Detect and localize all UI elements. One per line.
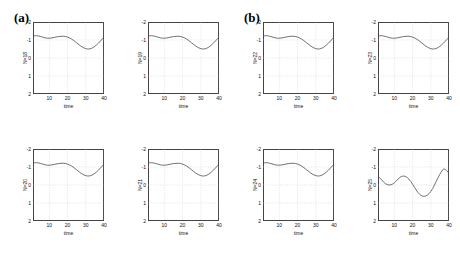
x-tick-label: 20 (180, 223, 186, 228)
x-axis-label: time (64, 103, 73, 109)
y-tick-label: -1 (27, 38, 31, 43)
x-axis-label: time (409, 230, 418, 236)
x-tick-label: 20 (65, 96, 71, 101)
data-series-line (33, 163, 104, 176)
x-axis-label: time (294, 230, 303, 236)
y-tick-label: 0 (258, 183, 261, 188)
axes-area: 210-1-210203040timeN=25 (378, 149, 449, 221)
subplot-N-19: 210-1-210203040timeN=19 (115, 0, 230, 127)
x-axis-label: time (294, 103, 303, 109)
axes-area: 210-1-210203040timeN=22 (263, 22, 334, 94)
y-tick-label: 2 (28, 92, 31, 97)
x-axis-label: time (64, 230, 73, 236)
y-tick-label: -2 (27, 147, 31, 152)
axes-area: 210-1-210203040timeN=18 (33, 22, 104, 94)
x-tick-label: 20 (410, 223, 416, 228)
data-series-line (263, 163, 334, 176)
gridlines (378, 22, 449, 94)
x-tick-label: 10 (162, 96, 168, 101)
x-tick-label: 10 (162, 223, 168, 228)
y-tick-label: -1 (372, 38, 376, 43)
y-tick-label: 0 (28, 56, 31, 61)
y-axis-label: N=21 (137, 179, 143, 191)
x-tick-label: 30 (83, 96, 89, 101)
y-axis-label: N=24 (252, 179, 258, 191)
y-tick-label: 0 (373, 183, 376, 188)
x-tick-label: 10 (47, 223, 53, 228)
panel-a: (a)210-1-210203040timeN=18210-1-21020304… (0, 0, 230, 254)
data-series-line (378, 36, 449, 49)
y-tick-label: 0 (143, 56, 146, 61)
y-axis-label: N=20 (22, 179, 28, 191)
axes-area: 210-1-210203040timeN=21 (148, 149, 219, 221)
y-tick-label: 1 (28, 74, 31, 79)
x-tick-label: 10 (277, 96, 283, 101)
y-tick-label: 2 (143, 219, 146, 224)
y-tick-label: -2 (142, 20, 146, 25)
x-tick-label: 40 (331, 223, 337, 228)
x-tick-label: 10 (392, 223, 398, 228)
y-tick-label: 2 (258, 219, 261, 224)
y-tick-label: -1 (372, 165, 376, 170)
x-axis-label: time (409, 103, 418, 109)
x-tick-label: 30 (198, 223, 204, 228)
x-tick-label: 10 (47, 96, 53, 101)
y-tick-label: 1 (143, 201, 146, 206)
x-tick-label: 40 (101, 96, 107, 101)
x-axis-label: time (179, 230, 188, 236)
y-axis-label: N=18 (22, 52, 28, 64)
y-tick-label: -2 (27, 20, 31, 25)
y-tick-label: -1 (142, 38, 146, 43)
y-tick-label: -1 (257, 165, 261, 170)
gridlines (263, 149, 334, 221)
plot-canvas (263, 149, 334, 221)
data-series-line (263, 36, 334, 49)
subplot-N-22: 210-1-210203040timeN=22 (230, 0, 345, 127)
x-tick-label: 40 (331, 96, 337, 101)
axes-area: 210-1-210203040timeN=23 (378, 22, 449, 94)
y-tick-label: 2 (143, 92, 146, 97)
subplot-N-18: 210-1-210203040timeN=18 (0, 0, 115, 127)
data-series-line (378, 169, 449, 196)
plot-canvas (148, 149, 219, 221)
y-tick-label: 1 (28, 201, 31, 206)
y-tick-label: 2 (258, 92, 261, 97)
y-tick-label: 2 (373, 219, 376, 224)
axes-area: 210-1-210203040timeN=24 (263, 149, 334, 221)
y-tick-label: -1 (142, 165, 146, 170)
data-series-line (148, 163, 219, 176)
y-tick-label: -1 (257, 38, 261, 43)
y-tick-label: 1 (373, 74, 376, 79)
y-tick-label: 2 (373, 92, 376, 97)
x-tick-label: 20 (180, 96, 186, 101)
y-tick-label: 2 (28, 219, 31, 224)
x-tick-label: 30 (198, 96, 204, 101)
subplot-N-24: 210-1-210203040timeN=24 (230, 127, 345, 254)
y-tick-label: -2 (372, 147, 376, 152)
y-tick-label: 1 (258, 201, 261, 206)
x-tick-label: 10 (392, 96, 398, 101)
x-tick-label: 30 (428, 223, 434, 228)
gridlines (148, 149, 219, 221)
subplot-N-21: 210-1-210203040timeN=21 (115, 127, 230, 254)
subplot-N-23: 210-1-210203040timeN=23 (345, 0, 460, 127)
y-tick-label: 1 (143, 74, 146, 79)
x-tick-label: 40 (446, 96, 452, 101)
x-tick-label: 40 (446, 223, 452, 228)
plot-canvas (33, 22, 104, 94)
x-tick-label: 20 (65, 223, 71, 228)
y-tick-label: -2 (257, 147, 261, 152)
y-tick-label: -2 (142, 147, 146, 152)
y-tick-label: 1 (258, 74, 261, 79)
y-axis-label: N=23 (367, 52, 373, 64)
figure-root: (a)210-1-210203040timeN=18210-1-21020304… (0, 0, 460, 254)
gridlines (33, 22, 104, 94)
plot-canvas (378, 22, 449, 94)
x-tick-label: 30 (428, 96, 434, 101)
y-tick-label: -2 (257, 20, 261, 25)
x-tick-label: 20 (295, 96, 301, 101)
plot-canvas (378, 149, 449, 221)
subplot-N-20: 210-1-210203040timeN=20 (0, 127, 115, 254)
x-tick-label: 30 (83, 223, 89, 228)
data-series-line (33, 36, 104, 49)
